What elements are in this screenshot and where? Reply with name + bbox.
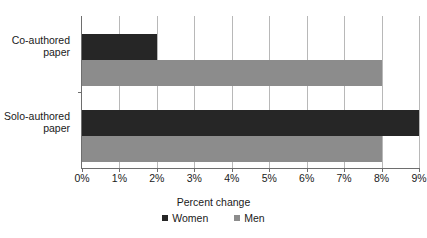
x-tick-label-5%: 5%: [249, 172, 289, 184]
x-tick-label-8%: 8%: [362, 172, 402, 184]
category-label-line-1: Solo-authored: [0, 110, 70, 122]
legend-swatch-men-icon: [234, 215, 240, 221]
x-tick-label-1%: 1%: [99, 172, 139, 184]
x-tick-label-6%: 6%: [287, 172, 327, 184]
category-label-line-2: paper: [0, 122, 70, 134]
x-axis-title: Percent change: [0, 196, 427, 208]
category-label-solo-authored: Solo-authored paper: [0, 110, 70, 134]
x-axis-line: [81, 168, 419, 169]
x-tick-label-0%: 0%: [62, 172, 102, 184]
legend-label-women: Women: [172, 212, 208, 224]
x-axis-tick-labels: 0%1%2%3%4%5%6%7%8%9%: [82, 172, 422, 186]
legend-item-men[interactable]: Men: [234, 212, 264, 224]
category-label-line-2: paper: [0, 46, 70, 58]
gridline-8%: [382, 16, 383, 168]
category-axis-labels: Co-authored paper Solo-authored paper: [0, 16, 74, 168]
bar-solo-authored-men[interactable]: [82, 136, 382, 162]
x-tick-label-2%: 2%: [137, 172, 177, 184]
x-tick-label-7%: 7%: [324, 172, 364, 184]
plot-area: [82, 16, 419, 168]
legend-label-men: Men: [244, 212, 264, 224]
category-label-co-authored: Co-authored paper: [0, 34, 70, 58]
bar-solo-authored-women[interactable]: [82, 110, 419, 136]
legend-item-women[interactable]: Women: [162, 212, 208, 224]
x-tick-label-4%: 4%: [212, 172, 252, 184]
x-tick-label-9%: 9%: [399, 172, 427, 184]
chart-legend: Women Men: [0, 212, 427, 224]
bar-co-authored-men[interactable]: [82, 60, 382, 86]
category-label-line-1: Co-authored: [0, 34, 70, 46]
gridline-9%: [419, 16, 420, 168]
bar-co-authored-women[interactable]: [82, 34, 157, 60]
x-tick-label-3%: 3%: [174, 172, 214, 184]
category-separator-tick: [78, 92, 82, 93]
legend-swatch-women-icon: [162, 215, 168, 221]
bar-chart: Co-authored paper Solo-authored paper 0%…: [0, 0, 427, 238]
